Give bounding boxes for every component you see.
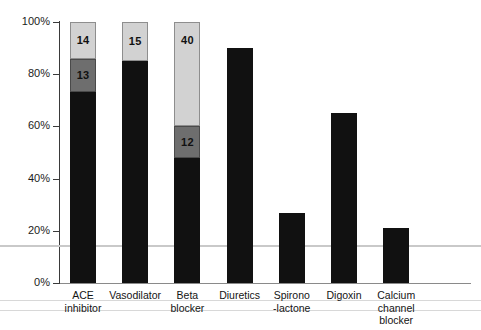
bar-segment-dark[interactable]	[383, 228, 409, 283]
bar-5[interactable]	[279, 22, 305, 283]
y-axis-tick-mark	[53, 231, 60, 232]
bar-4[interactable]	[227, 22, 253, 283]
bar-segment-mid[interactable]: 12	[174, 126, 200, 157]
bar-segment-light[interactable]: 40	[174, 22, 200, 126]
bar-segment-mid[interactable]: 13	[70, 59, 96, 93]
y-axis-tick-mark	[53, 126, 60, 127]
bar-segment-light[interactable]: 15	[122, 22, 148, 61]
bar-6[interactable]	[331, 22, 357, 283]
bar-7[interactable]	[383, 22, 409, 283]
bar-segment-value-label: 14	[77, 35, 90, 46]
plot-area: 1314151240	[60, 22, 470, 283]
bar-segment-value-label: 40	[181, 35, 194, 46]
y-axis-tick-mark	[53, 22, 60, 23]
bar-segment-light[interactable]: 14	[70, 22, 96, 59]
bar-2[interactable]: 15	[122, 22, 148, 283]
stacked-bar-chart: 100%80%60%40%20%0% 1314151240 ACE inhibi…	[0, 0, 481, 330]
bar-segment-dark[interactable]	[122, 61, 148, 283]
x-axis-category-label: Calcium channel blocker	[353, 289, 439, 327]
bar-segment-value-label: 13	[77, 70, 90, 81]
y-axis-tick-label: 80%	[0, 67, 50, 79]
bar-segment-dark[interactable]	[227, 48, 253, 283]
bar-segment-dark[interactable]	[174, 158, 200, 283]
bar-segment-value-label: 12	[181, 137, 194, 148]
y-axis-tick-mark	[53, 74, 60, 75]
bar-segment-value-label: 15	[129, 36, 142, 47]
x-axis-line	[59, 283, 471, 284]
bar-segment-dark[interactable]	[331, 113, 357, 283]
y-axis-tick-label: 100%	[0, 15, 50, 27]
y-axis-tick-label: 60%	[0, 119, 50, 131]
y-axis-tick-label: 0%	[0, 276, 50, 288]
bar-1[interactable]: 1314	[70, 22, 96, 283]
y-axis-tick-label: 20%	[0, 224, 50, 236]
bar-segment-dark[interactable]	[70, 92, 96, 283]
y-axis-tick-mark	[53, 179, 60, 180]
y-axis-tick-mark	[53, 283, 60, 284]
bar-3[interactable]: 1240	[174, 22, 200, 283]
y-axis-tick-label: 40%	[0, 172, 50, 184]
bar-segment-dark[interactable]	[279, 213, 305, 283]
